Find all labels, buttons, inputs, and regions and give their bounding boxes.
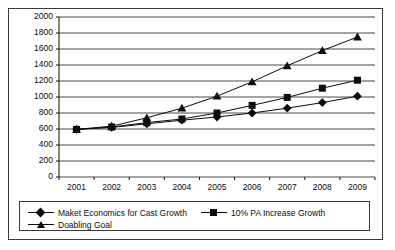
x-axis-tick-label: 2001 <box>57 182 97 192</box>
data-point-marker <box>249 102 256 109</box>
y-axis-tick-label: 1400 <box>19 59 53 69</box>
legend-label: Maket Economics for Cast Growth <box>58 208 187 218</box>
data-point-marker <box>178 116 185 123</box>
diamond-icon <box>36 208 46 218</box>
data-point-marker <box>248 109 257 118</box>
legend-marker-square-icon <box>201 207 227 218</box>
x-axis-tick-label: 2003 <box>127 182 167 192</box>
data-point-marker <box>353 92 362 101</box>
legend-label: 10% PA Increase Growth <box>231 208 325 218</box>
data-point-marker <box>284 94 291 101</box>
data-point-marker <box>354 77 361 84</box>
data-point-marker <box>177 104 186 112</box>
x-axis-tick-label: 2006 <box>232 182 272 192</box>
chart-svg <box>9 9 382 191</box>
data-point-marker <box>318 98 327 107</box>
data-point-marker <box>283 104 292 113</box>
y-axis-tick-label: 2000 <box>19 11 53 21</box>
data-point-marker <box>319 85 326 92</box>
x-axis-tick-label: 2004 <box>162 182 202 192</box>
chart-legend: Maket Economics for Cast Growth10% PA In… <box>19 201 370 231</box>
legend-label: Doabling Goal <box>58 220 112 230</box>
plot-area: 2000180016001400120010008006004002000 20… <box>9 9 382 191</box>
data-point-marker <box>318 46 327 54</box>
x-axis-tick-label: 2007 <box>267 182 307 192</box>
legend-entry[interactable]: 10% PA Increase Growth <box>201 207 325 218</box>
y-axis-tick-label: 1000 <box>19 91 53 101</box>
series-line <box>77 80 358 129</box>
y-axis-tick-label: 1600 <box>19 43 53 53</box>
y-axis-tick-label: 1200 <box>19 75 53 85</box>
x-axis-tick-label: 2002 <box>92 182 132 192</box>
y-axis-tick-label: 1800 <box>19 27 53 37</box>
legend-marker-diamond-icon <box>28 207 54 218</box>
legend-marker-triangle-icon <box>28 219 54 230</box>
y-axis-tick-label: 400 <box>19 139 53 149</box>
y-axis-tick-label: 600 <box>19 123 53 133</box>
y-axis-tick-label: 0 <box>19 171 53 181</box>
y-axis-tick-label: 800 <box>19 107 53 117</box>
legend-entry[interactable]: Maket Economics for Cast Growth <box>28 207 187 218</box>
square-icon <box>210 209 217 216</box>
chart-frame: 2000180016001400120010008006004002000 20… <box>8 8 383 240</box>
data-point-marker <box>213 92 222 100</box>
legend-entry[interactable]: Doabling Goal <box>28 219 112 230</box>
x-axis-tick-label: 2005 <box>197 182 237 192</box>
data-point-marker <box>214 110 221 117</box>
x-axis-tick-label: 2008 <box>302 182 342 192</box>
triangle-icon <box>37 221 45 228</box>
data-point-marker <box>353 33 362 41</box>
legend-row: Doabling Goal <box>28 218 126 231</box>
y-axis-tick-label: 200 <box>19 155 53 165</box>
x-axis-tick-label: 2009 <box>337 182 377 192</box>
